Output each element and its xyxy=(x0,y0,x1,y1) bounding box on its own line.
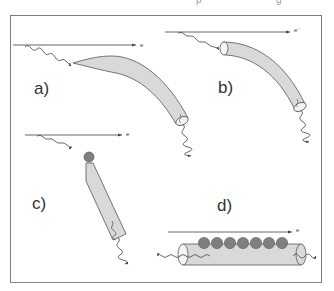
curved-tube xyxy=(223,42,305,110)
beam-label-a: e xyxy=(140,42,143,48)
beam-label-c: e xyxy=(126,131,129,137)
panel-label-d: d) xyxy=(217,197,232,214)
beam-label-b: e⁻ xyxy=(294,27,300,33)
exit-wave xyxy=(300,110,310,142)
panel-b xyxy=(165,32,310,142)
tapered-channel xyxy=(73,56,188,124)
panel-a xyxy=(13,45,192,156)
panel-label-a: a) xyxy=(34,80,49,97)
laser-wave xyxy=(178,32,219,50)
exit-wave xyxy=(182,124,192,156)
panel-label-c: c) xyxy=(32,195,46,212)
panel-label-b: b) xyxy=(218,79,233,96)
figure-diagram xyxy=(0,0,334,291)
beam-label-d: e xyxy=(296,227,299,233)
tapered-rod xyxy=(86,163,126,240)
laser-wave xyxy=(37,135,72,147)
exit-wave xyxy=(117,237,128,264)
sphere xyxy=(84,152,94,162)
laser-wave xyxy=(25,46,70,65)
panel-d xyxy=(157,232,316,265)
